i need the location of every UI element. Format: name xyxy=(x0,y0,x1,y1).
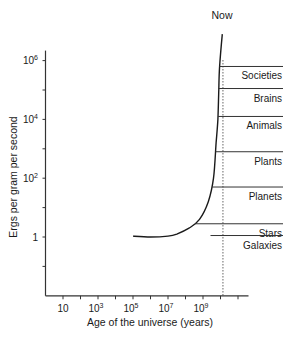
y-tick-label: 1 xyxy=(32,232,38,243)
milestone-label-plants: Plants xyxy=(254,156,282,167)
y-axis-title: Ergs per gram per second xyxy=(7,116,19,238)
x-tick-label: 107 xyxy=(158,302,173,314)
y-tick-label: 106 xyxy=(23,54,38,66)
milestone-label-planets: Planets xyxy=(249,191,282,202)
x-axis-title: Age of the universe (years) xyxy=(87,316,213,328)
x-tick-label: 109 xyxy=(193,302,208,314)
y-tick-label: 104 xyxy=(23,113,38,125)
milestone-label-galaxies: Galaxies xyxy=(243,240,282,251)
x-tick-label: 103 xyxy=(88,302,103,314)
annotation-layer: SocietiesBrainsAnimalsPlantsPlanetsStars… xyxy=(195,60,283,296)
milestone-label-brains: Brains xyxy=(254,93,282,104)
x-tick-label: 10 xyxy=(57,303,69,314)
milestone-label-stars: Stars xyxy=(259,228,282,239)
energy-rate-curve xyxy=(133,34,222,237)
curve-layer xyxy=(133,34,222,237)
milestone-label-animals: Animals xyxy=(246,120,282,131)
now-label: Now xyxy=(211,9,232,21)
axes: 110210410610103105107109 xyxy=(23,51,249,314)
y-tick-label: 102 xyxy=(23,172,38,184)
energy-rate-chart: 110210410610103105107109 SocietiesBrains… xyxy=(0,0,293,343)
x-tick-label: 105 xyxy=(123,302,138,314)
milestone-label-societies: Societies xyxy=(241,70,282,81)
